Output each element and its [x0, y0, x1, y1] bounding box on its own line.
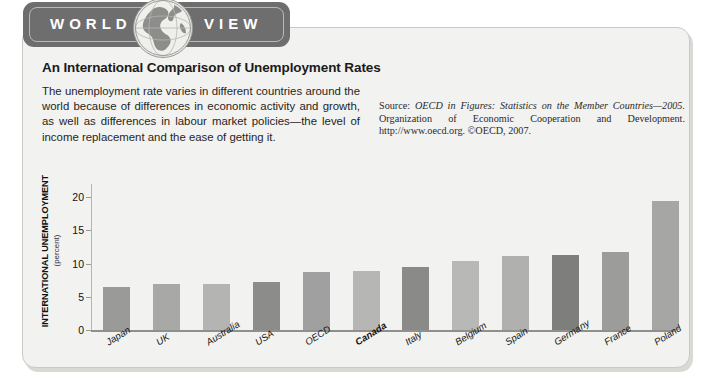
plot-area: 05101520 JapanUKAustraliaUSAOECDCanadaIt…	[58, 168, 681, 340]
y-tick-label: 15	[58, 224, 84, 236]
source-prefix: Source:	[379, 100, 415, 111]
unemployment-bar-chart: INTERNATIONAL UNEMPLOYMENT (percent) 051…	[33, 168, 681, 368]
bar-oecd	[303, 272, 330, 330]
y-tick-mark	[86, 230, 91, 231]
globe-icon	[133, 0, 193, 58]
source-rest: Organization of Economic Cooperation and…	[379, 113, 685, 137]
bar-italy	[402, 267, 429, 330]
bar-uk	[153, 284, 180, 330]
source-title: OECD in Figures: Statistics on the Membe…	[415, 100, 685, 111]
y-tick-label: 20	[58, 191, 84, 203]
y-tick-label: 5	[58, 291, 84, 303]
bar-poland	[652, 201, 679, 330]
world-view-figure: WORLD VIEW An International Comparison o…	[0, 0, 720, 384]
badge-word-view: VIEW	[204, 15, 262, 32]
bar-france	[602, 252, 629, 330]
bar-belgium	[452, 261, 479, 330]
y-tick-mark	[86, 297, 91, 298]
bar-germany	[552, 255, 579, 330]
intro-paragraph: The unemployment rate varies in differen…	[42, 84, 360, 145]
bar-group	[92, 184, 673, 330]
bar-spain	[502, 256, 529, 330]
x-tick-label-group: JapanUKAustraliaUSAOECDCanadaItalyBelgiu…	[92, 334, 673, 384]
badge-word-world: WORLD	[50, 15, 132, 32]
y-tick-label: 0	[58, 324, 84, 336]
y-tick-mark	[86, 330, 91, 331]
y-tick-mark	[86, 197, 91, 198]
bar-usa	[253, 282, 280, 330]
page-title: An International Comparison of Unemploym…	[42, 60, 381, 75]
y-tick-mark	[86, 264, 91, 265]
x-label-uk: UK	[154, 331, 171, 347]
y-tick-label: 10	[58, 258, 84, 270]
source-citation: Source: OECD in Figures: Statistics on t…	[379, 100, 685, 138]
bar-canada	[353, 271, 380, 330]
